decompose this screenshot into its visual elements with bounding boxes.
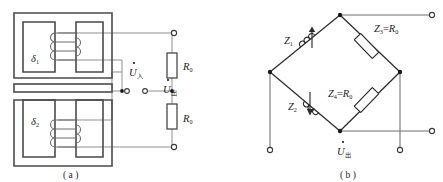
terminal-top-right [429,12,434,17]
element-z3: Z3=R0 [354,23,398,58]
z1-variable-arrow [309,27,315,49]
terminal-bottom-right [171,144,176,149]
voltage-output-text: U出 [163,84,177,97]
panel-a-diagram: δ1 δ2 R0 R0 [0,0,222,182]
voltage-label-input: U入 [129,62,143,79]
gap-label-bottom: δ2 [31,116,39,128]
resistor-r0-bottom [167,104,177,129]
node-left-vertex [268,70,272,74]
terminal-input-right [125,89,130,94]
element-z4: Z4=R0 [328,88,379,113]
panel-b-diagram: Z1 Z2 Z3=R0 [222,0,443,182]
node-input-tap [120,89,124,93]
terminal-output-left [143,89,148,94]
armature-plate [14,84,112,92]
voltage-input-text: U入 [129,67,143,79]
bridge-terminals [267,12,434,152]
top-core [14,13,112,78]
resistor-label-bottom: R0 [182,113,193,125]
terminal-bottom-left [267,147,272,152]
figure-root: δ1 δ2 R0 R0 [0,0,443,182]
node-bottom-vertex [338,129,342,133]
z3-resistor-box [354,34,379,59]
resistor-label-top: R0 [182,61,193,73]
voltage-label-output-b: U出 [337,141,351,159]
node-right-vertex [398,70,402,74]
terminal-top-right [171,30,176,35]
panel-b-caption: ( b ) [340,170,356,181]
phasor-dot-output-b [342,141,344,143]
z1-label: Z1 [284,35,293,47]
phasor-dot-input [133,62,135,64]
z3-label: Z3=R0 [374,23,398,35]
gap-label-top: δ1 [31,53,39,65]
terminal-mid-right [429,128,434,133]
bottom-core [14,100,112,166]
voltage-output-text-b: U出 [337,146,351,159]
panel-a-caption: ( a ) [63,170,78,181]
z4-resistor-box [354,88,379,113]
resistor-r0-top [167,53,177,78]
phasor-dot-output [167,79,169,81]
node-top-vertex [338,13,342,17]
bridge-leads [270,15,430,148]
voltage-label-output: U出 [163,79,177,97]
z2-label: Z2 [288,101,297,113]
z4-label: Z4=R0 [328,88,352,100]
element-z2: Z2 [288,92,319,116]
element-z1: Z1 [284,27,315,49]
terminal-bottom-right [397,147,402,152]
